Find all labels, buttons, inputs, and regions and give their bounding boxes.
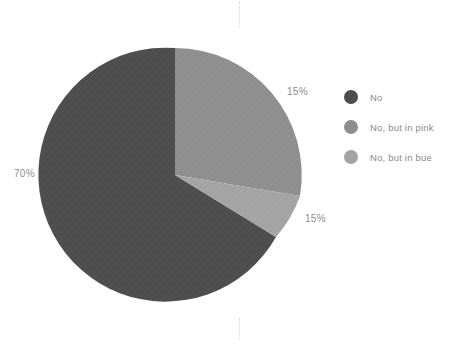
pie-label-no: 70% xyxy=(14,168,35,179)
pie-chart-figure: 70% 15% 15% No No, but in pink No, but i… xyxy=(0,0,456,345)
legend-label-no: No xyxy=(370,92,383,103)
legend-swatch-no-but-in-bue-icon xyxy=(344,150,358,164)
chart-legend: No No, but in pink No, but in bue xyxy=(344,82,456,172)
pie-label-no-but-in-bue: 15% xyxy=(305,213,326,224)
pie-chart-graphic xyxy=(0,0,456,345)
pie-label-no-but-in-pink: 15% xyxy=(287,86,308,97)
legend-label-no-but-in-bue: No, but in bue xyxy=(370,152,432,163)
legend-swatch-no-but-in-pink-icon xyxy=(344,120,358,134)
legend-item-no[interactable]: No xyxy=(344,82,456,112)
legend-swatch-no-icon xyxy=(344,90,358,104)
legend-item-no-but-in-bue[interactable]: No, but in bue xyxy=(344,142,456,172)
legend-label-no-but-in-pink: No, but in pink xyxy=(370,122,434,133)
pie-slice-no-but-in-pink xyxy=(175,48,302,196)
legend-item-no-but-in-pink[interactable]: No, but in pink xyxy=(344,112,456,142)
